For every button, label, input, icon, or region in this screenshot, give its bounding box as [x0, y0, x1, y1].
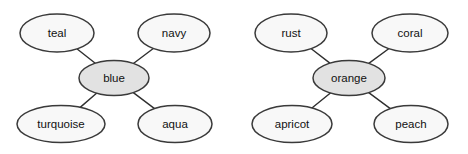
node-coral[interactable]: coral [372, 14, 448, 52]
node-aqua[interactable]: aqua [138, 106, 212, 143]
node-blue[interactable]: blue [79, 61, 149, 96]
node-link-graph: bluetealnavyturquoiseaquaorangerustcoral… [0, 0, 468, 154]
node-teal[interactable]: teal [20, 14, 94, 52]
edge-blue-teal [77, 49, 95, 63]
edge-blue-turquoise [80, 93, 96, 107]
node-navy[interactable]: navy [138, 14, 210, 52]
node-shape-peach[interactable] [374, 106, 448, 143]
node-shape-blue[interactable] [79, 61, 149, 96]
edge-orange-rust [311, 49, 330, 63]
node-rust[interactable]: rust [255, 14, 327, 52]
edge-orange-apricot [312, 93, 331, 108]
node-shape-navy[interactable] [138, 14, 210, 52]
diagram-canvas: bluetealnavyturquoiseaquaorangerustcoral… [0, 0, 468, 154]
node-peach[interactable]: peach [374, 106, 448, 143]
node-orange[interactable]: orange [313, 61, 385, 96]
node-shape-teal[interactable] [20, 14, 94, 52]
nodes-layer: bluetealnavyturquoiseaquaorangerustcoral… [17, 14, 448, 143]
node-shape-coral[interactable] [372, 14, 448, 52]
edge-orange-coral [369, 49, 389, 64]
edge-blue-aqua [133, 93, 154, 109]
node-shape-turquoise[interactable] [17, 106, 105, 143]
edge-orange-peach [369, 93, 391, 109]
edge-blue-navy [133, 49, 153, 64]
node-shape-orange[interactable] [313, 61, 385, 96]
node-shape-aqua[interactable] [138, 106, 212, 143]
node-apricot[interactable]: apricot [252, 106, 332, 143]
node-shape-apricot[interactable] [252, 106, 332, 143]
node-turquoise[interactable]: turquoise [17, 106, 105, 143]
node-shape-rust[interactable] [255, 14, 327, 52]
